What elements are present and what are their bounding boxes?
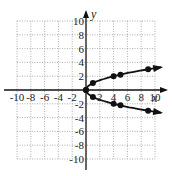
svg-text:10: 10 — [150, 91, 162, 103]
svg-text:10: 10 — [73, 15, 85, 27]
tick-labels: xy-10-8-6-4-2246810108642-2-4-6-8-10 — [10, 7, 161, 165]
svg-text:-10: -10 — [10, 91, 25, 103]
svg-text:8: 8 — [138, 91, 144, 103]
svg-text:4: 4 — [79, 56, 85, 68]
svg-text:y: y — [90, 7, 97, 21]
svg-text:-4: -4 — [75, 112, 85, 124]
svg-text:4: 4 — [111, 91, 117, 103]
svg-text:8: 8 — [79, 29, 85, 41]
svg-text:6: 6 — [125, 91, 131, 103]
svg-text:-8: -8 — [26, 91, 36, 103]
svg-text:2: 2 — [97, 91, 103, 103]
svg-text:-10: -10 — [69, 153, 84, 165]
svg-text:-6: -6 — [40, 91, 50, 103]
svg-text:-2: -2 — [75, 98, 84, 110]
svg-text:2: 2 — [79, 70, 85, 82]
svg-text:-8: -8 — [75, 139, 85, 151]
svg-text:-4: -4 — [54, 91, 64, 103]
svg-text:6: 6 — [79, 43, 85, 55]
svg-text:-6: -6 — [75, 125, 85, 137]
graph: xy-10-8-6-4-2246810108642-2-4-6-8-10 — [0, 0, 173, 176]
